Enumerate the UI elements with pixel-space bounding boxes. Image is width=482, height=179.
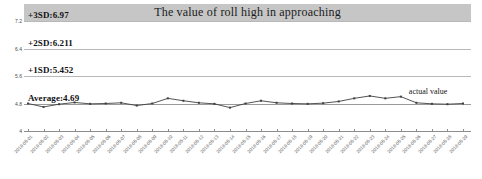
- x-axis-tick: [75, 129, 76, 132]
- data-point-marker: [27, 103, 29, 105]
- x-axis-tick: [339, 129, 340, 132]
- data-point-marker: [167, 97, 169, 99]
- x-axis-tick: [385, 129, 386, 132]
- x-axis-tick: [370, 129, 371, 132]
- chart-title: The value of roll high in approaching: [24, 4, 471, 21]
- data-point-marker: [291, 103, 293, 105]
- x-axis-tick: [152, 129, 153, 132]
- x-axis-tick: [90, 129, 91, 132]
- data-point-marker: [307, 103, 309, 105]
- data-point-marker: [446, 103, 448, 105]
- data-point-marker: [58, 103, 60, 105]
- data-point-marker: [213, 103, 215, 105]
- x-axis-tick: [261, 129, 262, 132]
- x-axis-tick: [44, 129, 45, 132]
- x-axis-tick: [246, 129, 247, 132]
- data-point-marker: [431, 103, 433, 105]
- data-point-marker: [245, 103, 247, 105]
- data-point-marker: [369, 95, 371, 97]
- y-axis-tick-label: 7.2: [0, 18, 22, 24]
- x-axis-tick: [308, 129, 309, 132]
- x-axis-tick: [59, 129, 60, 132]
- x-axis-tick: [106, 129, 107, 132]
- y-axis-tick-label: 4: [0, 128, 22, 134]
- x-axis-tick: [183, 129, 184, 132]
- x-axis-tick: [323, 129, 324, 132]
- series-line-actual-value: [24, 21, 471, 131]
- data-point-marker: [89, 103, 91, 105]
- x-axis-tick: [292, 129, 293, 132]
- reference-label-sd3: +3SD:6.97: [28, 10, 69, 20]
- x-axis-tick: [230, 129, 231, 132]
- x-axis-tick: [463, 129, 464, 132]
- data-point-marker: [384, 97, 386, 99]
- data-point-marker: [229, 107, 231, 109]
- data-point-marker: [74, 101, 76, 103]
- x-axis-tick: [416, 129, 417, 132]
- y-axis-tick-label: 4.8: [0, 101, 22, 107]
- data-point-marker: [400, 96, 402, 98]
- data-point-marker: [120, 102, 122, 104]
- y-axis-tick-label: 5.6: [0, 73, 22, 79]
- x-axis-tick: [214, 129, 215, 132]
- series-annotation-actual-value: actual value: [409, 87, 447, 96]
- data-point-marker: [198, 102, 200, 104]
- data-point-marker: [43, 106, 45, 108]
- y-axis-tick-label: 6.4: [0, 46, 22, 52]
- series-polyline: [28, 96, 463, 108]
- data-point-marker: [415, 102, 417, 104]
- x-axis-tick: [432, 129, 433, 132]
- x-axis-tick: [401, 129, 402, 132]
- x-axis-tick: [121, 129, 122, 132]
- x-axis-tick: [447, 129, 448, 132]
- x-axis-tick: [354, 129, 355, 132]
- data-point-marker: [151, 103, 153, 105]
- data-point-marker: [136, 105, 138, 107]
- data-point-marker: [276, 102, 278, 104]
- x-axis-tick: [137, 129, 138, 132]
- data-point-marker: [260, 100, 262, 102]
- x-axis-tick: [199, 129, 200, 132]
- x-axis-tick: [28, 129, 29, 132]
- x-axis-labels: 2018-05-012018-05-022018-05-032018-05-04…: [24, 132, 471, 179]
- data-point-marker: [462, 103, 464, 105]
- data-point-marker: [182, 100, 184, 102]
- x-axis-tick: [277, 129, 278, 132]
- data-point-marker: [322, 102, 324, 104]
- data-point-marker: [353, 97, 355, 99]
- data-point-marker: [105, 103, 107, 105]
- chart-container: The value of roll high in approaching +3…: [0, 0, 482, 179]
- x-axis-tick: [168, 129, 169, 132]
- data-point-marker: [338, 100, 340, 102]
